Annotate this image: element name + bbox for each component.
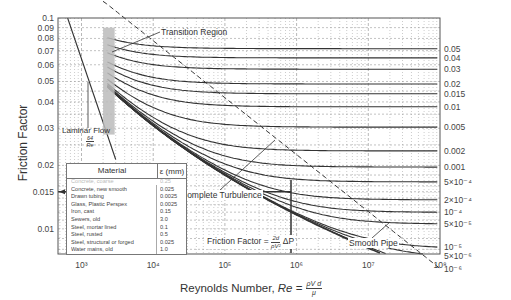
laminar-flow-label: Laminar Flow 64Re xyxy=(62,126,110,148)
y-tick-label: 0.06 xyxy=(37,60,54,70)
material-column: Concrete, coarseConcrete, new smoothDraw… xyxy=(67,185,157,254)
x-axis-eq: = xyxy=(293,282,306,294)
material-name: Sewers, old xyxy=(71,216,156,224)
y-tick-label: 0.01 xyxy=(37,224,54,234)
material-epsilon: 1.0 xyxy=(160,246,186,254)
x-axis-prefix: Reynolds Number, xyxy=(180,282,278,294)
material-epsilon: 0.0025 xyxy=(160,201,186,209)
transition-band xyxy=(103,28,115,135)
complete-turbulence-label: Complete Turbulence xyxy=(180,190,263,200)
y-tick-label: 0.07 xyxy=(37,46,54,56)
laminar-formula: 64Re xyxy=(86,135,94,148)
material-epsilon: 0.0025 xyxy=(160,193,186,201)
x-tick-label: 10⁵ xyxy=(218,260,231,270)
y-axis-label: Friction Factor xyxy=(16,98,30,188)
x-axis-denominator: μ xyxy=(306,289,323,297)
x-axis-var: Re xyxy=(278,282,293,294)
roughness-label: 5×10⁻⁶ xyxy=(444,251,472,261)
y-tick-label: 0.1 xyxy=(42,13,54,23)
material-epsilon: 0.1 xyxy=(160,224,186,232)
transition-region-label: Transition Region xyxy=(161,27,227,37)
roughness-label: 10⁻⁴ xyxy=(444,207,462,217)
laminar-flow-text: Laminar Flow xyxy=(62,126,110,135)
table-body: Concrete, coarseConcrete, new smoothDraw… xyxy=(67,179,186,254)
roughness-label: 0.005 xyxy=(444,122,466,132)
material-epsilon: 0.025 xyxy=(160,239,186,247)
roughness-label: 2×10⁻⁴ xyxy=(444,195,472,205)
moody-chart: 0.10.090.080.070.060.050.040.030.020.015… xyxy=(0,0,511,300)
y-axis-ticks: 0.10.090.080.070.060.050.040.030.020.015… xyxy=(33,13,55,234)
roughness-label: 0.02 xyxy=(444,79,461,89)
material-name: Concrete, coarse xyxy=(71,178,156,186)
material-epsilon: 0.5 xyxy=(160,231,186,239)
material-name: Steel, mortar lined xyxy=(71,224,156,232)
material-name: Steel, structural or forged xyxy=(71,239,156,247)
x-tick-label: 10⁴ xyxy=(147,260,160,270)
friction-factor-formula: Friction Factor = 2dρV² ΔP xyxy=(206,235,295,249)
roughness-label: 0.002 xyxy=(444,146,466,156)
roughness-label: 5×10⁻⁴ xyxy=(444,177,472,187)
roughness-curve xyxy=(107,67,437,94)
x-tick-label: 10³ xyxy=(75,260,87,270)
y-tick-label: 0.09 xyxy=(37,23,54,33)
x-axis-numerator: ρV d xyxy=(306,280,323,289)
epsilon-column: 0.250.0250.00250.00250.153.00.10.50.0251… xyxy=(157,185,186,254)
smooth-pipe-label: Smooth Pipe xyxy=(348,238,399,248)
ff-suffix: ΔP xyxy=(280,236,294,246)
y-tick-label: 0.04 xyxy=(37,97,54,107)
material-roughness-table: Material ε (mm) Concrete, coarseConcrete… xyxy=(66,163,187,255)
roughness-label: 0.04 xyxy=(444,53,461,63)
laminar-denominator: Re xyxy=(86,142,94,148)
material-name: Steel, rusted xyxy=(71,231,156,239)
y-tick-label: 0.02 xyxy=(37,160,54,170)
x-axis-fraction: ρV dμ xyxy=(306,280,323,297)
ff-prefix: Friction Factor = xyxy=(207,236,271,246)
material-name: Iron, cast xyxy=(71,208,156,216)
roughness-label: 0.015 xyxy=(444,89,466,99)
material-epsilon: 3.0 xyxy=(160,216,186,224)
y-tick-label: 0.015 xyxy=(33,187,55,197)
roughness-label: 0.03 xyxy=(444,64,461,74)
x-axis-ticks: 10³10⁴10⁵10⁶10⁷10⁸ xyxy=(75,260,447,270)
y-tick-label: 0.03 xyxy=(37,123,54,133)
material-name: Glass, Plastic Perspex xyxy=(71,201,156,209)
x-axis-label: Reynolds Number, Re = ρV dμ xyxy=(180,280,322,297)
material-epsilon: 0.15 xyxy=(160,208,186,216)
material-name: Drawn tubing xyxy=(71,193,156,201)
x-tick-label: 10⁷ xyxy=(362,260,375,270)
material-name: Water mains, old xyxy=(71,246,156,254)
roughness-label: 0.001 xyxy=(444,162,466,172)
smooth-pointer xyxy=(372,222,390,238)
material-name: Concrete, new smooth xyxy=(71,186,156,194)
header-material: Material xyxy=(67,164,158,178)
transition-pointer xyxy=(112,32,160,52)
roughness-label: 5×10⁻⁵ xyxy=(444,219,472,229)
header-epsilon: ε (mm) xyxy=(158,167,186,176)
roughness-label: 10⁻⁶ xyxy=(444,264,462,274)
roughness-label: 0.01 xyxy=(444,102,461,112)
laminar-numerator: 64 xyxy=(86,135,94,142)
y-tick-label: 0.05 xyxy=(37,76,54,86)
roughness-labels: 0.050.040.030.020.0150.010.0050.0020.001… xyxy=(444,44,472,275)
material-epsilon: 0.25 xyxy=(160,178,186,186)
y-tick-label: 0.08 xyxy=(37,33,54,43)
table-header: Material ε (mm) xyxy=(67,164,186,179)
material-epsilon: 0.025 xyxy=(160,186,186,194)
x-tick-label: 10⁶ xyxy=(290,260,303,270)
